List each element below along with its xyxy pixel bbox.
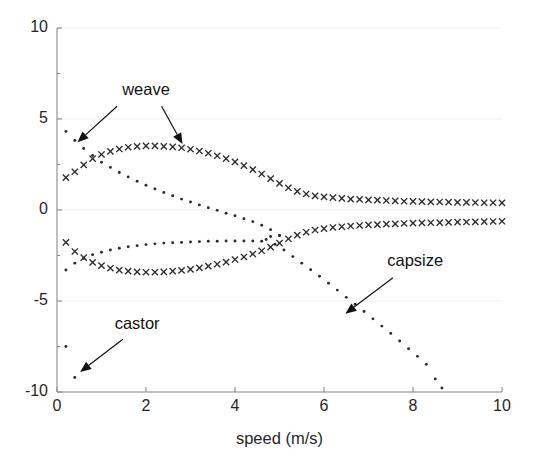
marker-dot (136, 180, 139, 183)
marker-dot (109, 166, 112, 169)
marker-dot (64, 345, 67, 348)
y-tick-label-10: 10 (30, 18, 48, 35)
marker-dot (189, 201, 192, 204)
x-tick-label-4: 4 (231, 397, 240, 414)
marker-dot (198, 203, 201, 206)
marker-dot (425, 363, 428, 366)
marker-dot (291, 255, 294, 258)
marker-dot (309, 268, 312, 271)
marker-dot (180, 198, 183, 201)
y-tick-label--5: -5 (34, 291, 48, 308)
annotation-label-castor: castor (115, 314, 160, 332)
x-tick-label-10: 10 (493, 397, 511, 414)
marker-dot (118, 247, 121, 250)
y-tick-label--10: -10 (25, 382, 48, 399)
marker-dot (242, 217, 245, 220)
marker-dot (153, 242, 156, 245)
figure-background (0, 0, 534, 462)
marker-dot (145, 243, 148, 246)
y-tick-label-0: 0 (39, 200, 48, 217)
marker-dot (91, 253, 94, 256)
marker-dot (127, 175, 130, 178)
marker-dot (73, 139, 76, 142)
marker-dot (265, 238, 268, 241)
marker-dot (260, 240, 263, 243)
marker-dot (251, 220, 254, 223)
marker-dot (216, 209, 219, 212)
x-axis-title: speed (m/s) (236, 429, 323, 447)
y-tick-label-5: 5 (39, 109, 48, 126)
marker-dot (434, 377, 437, 380)
marker-dot (153, 187, 156, 190)
marker-dot (207, 206, 210, 209)
marker-dot (260, 224, 263, 227)
marker-dot (162, 191, 165, 194)
marker-dot (398, 340, 401, 343)
marker-dot (207, 240, 210, 243)
marker-dot (269, 228, 272, 231)
chart-canvas: weavecapsizecastor -10-50510 0246810 spe… (0, 0, 534, 462)
eigenvalue-plot-figure: weavecapsizecastor -10-50510 0246810 spe… (0, 0, 534, 462)
marker-dot (82, 257, 85, 260)
marker-dot (198, 240, 201, 243)
marker-dot (416, 355, 419, 358)
marker-dot (73, 376, 76, 379)
marker-dot (372, 317, 375, 320)
marker-dot (118, 171, 121, 174)
marker-dot (225, 239, 228, 242)
marker-dot (91, 154, 94, 157)
marker-dot (389, 332, 392, 335)
marker-dot (162, 242, 165, 245)
marker-dot (380, 325, 383, 328)
marker-dot (278, 234, 281, 237)
marker-dot (180, 241, 183, 244)
marker-dot (64, 269, 67, 272)
marker-dot (100, 251, 103, 254)
marker-dot (234, 214, 237, 217)
marker-dot (171, 194, 174, 197)
x-tick-label-0: 0 (53, 397, 62, 414)
marker-dot (336, 289, 339, 292)
marker-dot (300, 262, 303, 265)
marker-dot (274, 243, 277, 246)
marker-dot (234, 239, 237, 242)
marker-dot (136, 244, 139, 247)
x-tick-label-8: 8 (409, 397, 418, 414)
marker-dot (283, 249, 286, 252)
marker-dot (242, 239, 245, 242)
marker-dot (109, 249, 112, 252)
marker-dot (100, 161, 103, 164)
marker-dot (363, 310, 366, 313)
marker-dot (216, 240, 219, 243)
marker-dot (145, 184, 148, 187)
marker-dot (127, 245, 130, 248)
annotation-label-capsize: capsize (387, 251, 443, 269)
marker-dot (225, 212, 228, 215)
marker-dot (345, 296, 348, 299)
marker-dot (171, 241, 174, 244)
x-tick-label-6: 6 (320, 397, 329, 414)
annotation-label-weave: weave (121, 80, 170, 98)
marker-dot (82, 147, 85, 150)
marker-dot (327, 282, 330, 285)
marker-dot (189, 241, 192, 244)
marker-dot (251, 239, 254, 242)
marker-dot (73, 262, 76, 265)
marker-dot (440, 387, 443, 390)
x-tick-label-2: 2 (142, 397, 151, 414)
marker-dot (64, 130, 67, 133)
marker-dot (407, 347, 410, 350)
marker-dot (269, 235, 272, 238)
marker-dot (318, 275, 321, 278)
